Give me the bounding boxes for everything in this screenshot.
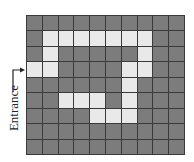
wall-cell (74, 47, 89, 61)
path-cell (106, 109, 121, 123)
wall-cell (138, 109, 153, 123)
wall-cell (138, 140, 153, 154)
path-cell (43, 31, 58, 45)
wall-cell (138, 93, 153, 107)
wall-cell (153, 109, 168, 123)
wall-cell (43, 124, 58, 138)
wall-cell (153, 124, 168, 138)
wall-cell (43, 78, 58, 92)
wall-cell (106, 16, 121, 30)
wall-cell (169, 47, 184, 61)
wall-cell (153, 140, 168, 154)
wall-cell (90, 62, 105, 76)
wall-cell (169, 93, 184, 107)
entrance-arrow-icon (0, 0, 30, 162)
wall-cell (169, 124, 184, 138)
wall-cell (74, 109, 89, 123)
wall-cell (74, 124, 89, 138)
wall-cell (169, 109, 184, 123)
wall-cell (169, 140, 184, 154)
wall-cell (90, 78, 105, 92)
wall-cell (59, 140, 74, 154)
path-cell (138, 47, 153, 61)
path-cell (59, 31, 74, 45)
wall-cell (153, 62, 168, 76)
wall-cell (153, 78, 168, 92)
path-cell (122, 109, 137, 123)
wall-cell (59, 109, 74, 123)
wall-cell (153, 47, 168, 61)
path-cell (74, 93, 89, 107)
wall-cell (59, 78, 74, 92)
path-cell (122, 78, 137, 92)
wall-cell (90, 16, 105, 30)
wall-cell (169, 16, 184, 30)
path-cell (43, 47, 58, 61)
path-cell (122, 62, 137, 76)
wall-cell (59, 62, 74, 76)
wall-cell (106, 124, 121, 138)
wall-cell (153, 16, 168, 30)
wall-cell (138, 78, 153, 92)
wall-cell (169, 62, 184, 76)
path-cell (90, 109, 105, 123)
wall-cell (90, 124, 105, 138)
wall-cell (43, 109, 58, 123)
wall-cell (122, 47, 137, 61)
wall-cell (106, 93, 121, 107)
wall-cell (138, 124, 153, 138)
wall-cell (122, 16, 137, 30)
wall-cell (138, 16, 153, 30)
path-cell (106, 31, 121, 45)
wall-cell (106, 47, 121, 61)
wall-cell (74, 62, 89, 76)
path-cell (59, 93, 74, 107)
wall-cell (59, 124, 74, 138)
path-cell (138, 31, 153, 45)
wall-cell (169, 78, 184, 92)
entrance-label: Entrance (7, 84, 21, 132)
wall-cell (122, 124, 137, 138)
wall-cell (122, 140, 137, 154)
wall-cell (90, 47, 105, 61)
wall-cell (153, 31, 168, 45)
wall-cell (74, 140, 89, 154)
wall-cell (106, 140, 121, 154)
wall-cell (43, 93, 58, 107)
maze-grid (26, 15, 185, 155)
path-cell (90, 31, 105, 45)
wall-cell (90, 140, 105, 154)
path-cell (74, 31, 89, 45)
wall-cell (106, 78, 121, 92)
wall-cell (59, 16, 74, 30)
wall-cell (74, 16, 89, 30)
wall-cell (153, 93, 168, 107)
path-cell (90, 93, 105, 107)
path-cell (122, 93, 137, 107)
wall-cell (74, 78, 89, 92)
wall-cell (43, 16, 58, 30)
wall-cell (106, 62, 121, 76)
path-cell (122, 31, 137, 45)
wall-cell (59, 47, 74, 61)
path-cell (43, 62, 58, 76)
wall-cell (43, 140, 58, 154)
wall-cell (169, 31, 184, 45)
path-cell (138, 62, 153, 76)
